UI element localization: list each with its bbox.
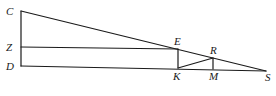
segment-DS	[21, 66, 266, 71]
label-D: D	[5, 60, 14, 72]
segments	[21, 11, 266, 71]
label-C: C	[6, 5, 14, 17]
label-M: M	[208, 70, 219, 82]
label-K: K	[172, 70, 181, 82]
label-S: S	[265, 71, 271, 83]
segment-KR	[178, 58, 213, 68]
label-E: E	[173, 35, 181, 47]
segment-ZE	[21, 47, 178, 49]
geometry-diagram: C Z D E K R M S	[0, 0, 276, 96]
label-R: R	[209, 44, 217, 56]
label-Z: Z	[6, 41, 13, 53]
segment-CS	[21, 11, 266, 71]
